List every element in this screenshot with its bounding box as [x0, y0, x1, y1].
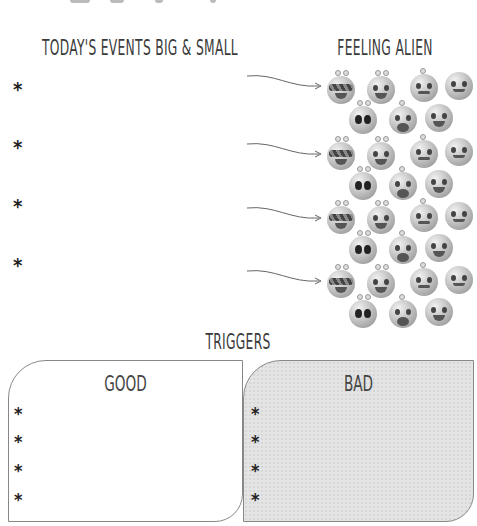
sad-alien-icon[interactable]: [445, 138, 473, 166]
bad-bullet-1: *: [251, 405, 259, 423]
crying-alien-icon[interactable]: [389, 300, 417, 328]
angry-alien-icon[interactable]: [425, 170, 453, 198]
laughing-alien-icon[interactable]: [367, 206, 395, 234]
crying-alien-icon[interactable]: [389, 106, 417, 134]
bad-bullet-2: *: [251, 433, 259, 451]
crying-alien-icon[interactable]: [389, 172, 417, 200]
cool-sunglasses-alien-icon[interactable]: [327, 142, 355, 170]
triggers-heading: Triggers: [164, 329, 313, 354]
arrow-icon: [245, 70, 325, 92]
feeling-heading: Feeling alien: [326, 35, 444, 60]
good-bullet-2: *: [14, 433, 22, 451]
arrow-icon: [245, 202, 325, 224]
bad-title: Bad: [288, 371, 430, 396]
angry-alien-icon[interactable]: [425, 298, 453, 326]
bad-triggers-box[interactable]: Bad * * * *: [243, 360, 474, 522]
event-bullet-1: *: [13, 79, 22, 99]
bad-bullet-3: *: [251, 462, 259, 480]
arrow-icon: [245, 265, 325, 287]
emoji-row-4: [325, 264, 475, 334]
laughing-alien-icon[interactable]: [367, 270, 395, 298]
events-heading: Today's Events Big & Small: [41, 35, 239, 60]
event-bullet-4: *: [13, 255, 22, 275]
worried-alien-icon[interactable]: [410, 140, 438, 168]
bad-bullet-4: *: [251, 491, 259, 509]
cool-sunglasses-alien-icon[interactable]: [327, 206, 355, 234]
laughing-alien-icon[interactable]: [367, 76, 395, 104]
fragment: [70, 0, 90, 3]
angry-alien-icon[interactable]: [425, 234, 453, 262]
cool-sunglasses-alien-icon[interactable]: [327, 76, 355, 104]
crying-alien-icon[interactable]: [389, 236, 417, 264]
cool-sunglasses-alien-icon[interactable]: [327, 270, 355, 298]
emoji-row-3: [325, 200, 475, 270]
emoji-row-2: [325, 136, 475, 206]
fragment: [110, 0, 124, 3]
shocked-alien-icon[interactable]: [349, 300, 377, 328]
angry-alien-icon[interactable]: [425, 104, 453, 132]
shocked-alien-icon[interactable]: [349, 172, 377, 200]
cropped-previous-content: [0, 0, 477, 8]
worried-alien-icon[interactable]: [410, 268, 438, 296]
laughing-alien-icon[interactable]: [367, 142, 395, 170]
shocked-alien-icon[interactable]: [349, 106, 377, 134]
event-bullet-2: *: [13, 137, 22, 157]
sad-alien-icon[interactable]: [445, 266, 473, 294]
fragment: [210, 0, 216, 3]
worried-alien-icon[interactable]: [410, 204, 438, 232]
sad-alien-icon[interactable]: [445, 202, 473, 230]
good-triggers-box[interactable]: Good * * * *: [8, 360, 243, 522]
good-title: Good: [53, 371, 197, 396]
good-bullet-3: *: [14, 462, 22, 480]
sad-alien-icon[interactable]: [445, 72, 473, 100]
event-bullet-3: *: [13, 196, 22, 216]
arrow-icon: [245, 138, 325, 160]
fragment: [155, 0, 163, 3]
worried-alien-icon[interactable]: [410, 74, 438, 102]
shocked-alien-icon[interactable]: [349, 236, 377, 264]
good-bullet-4: *: [14, 491, 22, 509]
good-bullet-1: *: [14, 405, 22, 423]
emoji-row-1: [325, 70, 475, 140]
